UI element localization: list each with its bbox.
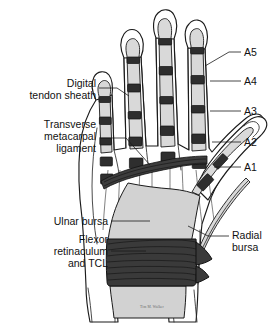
label-pulley-a2: A2 bbox=[244, 136, 257, 148]
label-radial-bursa-line2: bursa bbox=[232, 241, 258, 253]
label-ulnar-bursa-line1: Ulnar bursa bbox=[54, 215, 108, 227]
label-ulnar-bursa: Ulnar bursa bbox=[54, 215, 108, 227]
label-pulley-a5: A5 bbox=[244, 46, 257, 58]
label-transverse-metacarpal-ligament-line1: Transverse bbox=[44, 118, 96, 130]
artist-signature: Tim M. Walker bbox=[140, 305, 165, 309]
label-digital-tendon-sheath-line2: tendon sheath bbox=[29, 89, 96, 101]
label-pulley-a4: A4 bbox=[244, 75, 257, 87]
pulley-labels: A5 A4 A3 A2 A1 bbox=[244, 46, 257, 173]
label-pulley-a3: A3 bbox=[244, 105, 257, 117]
anatomical-figure-hand-flexor-sheaths: Digital tendon sheath Transverse metacar… bbox=[0, 0, 280, 327]
label-digital-tendon-sheath-line1: Digital bbox=[67, 77, 96, 89]
label-transverse-metacarpal-ligament-line3: ligament bbox=[56, 142, 96, 154]
label-pulley-a1: A1 bbox=[244, 161, 257, 173]
label-transverse-metacarpal-ligament-line2: metacarpal bbox=[44, 130, 96, 142]
label-radial-bursa-line1: Radial bbox=[232, 229, 262, 241]
hand-illustration-svg: Digital tendon sheath Transverse metacar… bbox=[0, 0, 280, 327]
label-flexor-retinaculum-line2: retinaculum bbox=[54, 245, 109, 257]
label-transverse-metacarpal-ligament: Transverse metacarpal ligament bbox=[44, 118, 96, 154]
label-flexor-retinaculum-line1: Flexor bbox=[79, 233, 109, 245]
label-flexor-retinaculum-line3: and TCL bbox=[68, 257, 108, 269]
label-digital-tendon-sheath: Digital tendon sheath bbox=[29, 77, 96, 101]
label-flexor-retinaculum-and-tcl: Flexor retinaculum and TCL bbox=[54, 233, 109, 269]
flexor-retinaculum-tcl bbox=[106, 239, 212, 286]
label-radial-bursa: Radial bursa bbox=[232, 229, 262, 253]
